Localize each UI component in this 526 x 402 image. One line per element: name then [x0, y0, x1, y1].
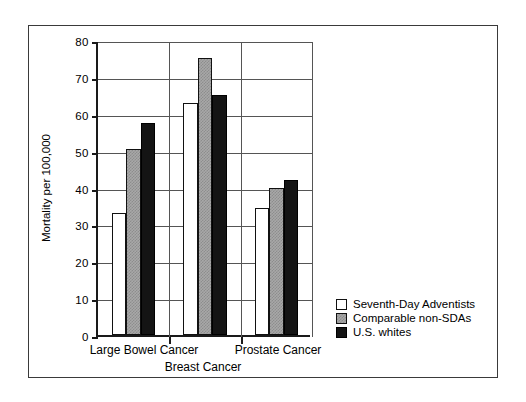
bar-prostate-cancer-comparable-non-sdas [269, 188, 284, 336]
category-label-breast-cancer: Breast Cancer [165, 360, 242, 374]
plot-right-edge [312, 42, 313, 337]
plot-area: 01020304050607080 [96, 42, 310, 337]
y-tick-label-50: 50 [75, 147, 89, 159]
bar-large-bowel-cancer-seventh-day-adventists [112, 213, 127, 335]
y-tick-10 [92, 300, 98, 302]
group-separator-2 [241, 42, 242, 337]
y-tick-label-20: 20 [75, 257, 89, 269]
y-tick-40 [92, 190, 98, 192]
legend-label: Seventh-Day Adventists [353, 298, 475, 310]
y-tick-label-10: 10 [75, 294, 89, 306]
bar-breast-cancer-u-s-whites [212, 95, 227, 335]
y-tick-70 [92, 79, 98, 81]
chart-legend: Seventh-Day Adventists Comparable non-SD… [336, 298, 475, 338]
legend-swatch-gray [336, 313, 347, 324]
y-tick-20 [92, 263, 98, 265]
y-axis-title: Mortality per 100,000 [40, 134, 52, 242]
y-tick-label-80: 80 [75, 36, 89, 48]
y-tick-60 [92, 116, 98, 118]
legend-item-us-whites: U.S. whites [336, 326, 475, 338]
y-tick-label-30: 30 [75, 220, 89, 232]
category-label-large-bowel-cancer: Large Bowel Cancer [90, 343, 199, 357]
y-tick-0 [92, 337, 98, 339]
chart-figure: Mortality per 100,000 01020304050607080 … [0, 0, 526, 402]
y-tick-50 [92, 153, 98, 155]
legend-label: U.S. whites [353, 326, 411, 338]
y-tick-label-0: 0 [82, 331, 89, 343]
group-separator-1 [169, 42, 170, 337]
plot-top-edge [98, 42, 312, 43]
y-tick-label-70: 70 [75, 73, 89, 85]
bar-large-bowel-cancer-comparable-non-sdas [126, 149, 141, 335]
legend-item-seventh-day-adventists: Seventh-Day Adventists [336, 298, 475, 310]
legend-swatch-black [336, 327, 347, 338]
legend-item-comparable-non-sdas: Comparable non-SDAs [336, 312, 475, 324]
bar-prostate-cancer-u-s-whites [284, 180, 299, 335]
category-label-prostate-cancer: Prostate Cancer [235, 343, 322, 357]
bar-breast-cancer-seventh-day-adventists [183, 103, 198, 335]
y-tick-label-40: 40 [75, 184, 89, 196]
bar-prostate-cancer-seventh-day-adventists [255, 208, 270, 335]
legend-swatch-white [336, 299, 347, 310]
bar-breast-cancer-comparable-non-sdas [198, 58, 213, 335]
y-tick-label-60: 60 [75, 110, 89, 122]
bar-large-bowel-cancer-u-s-whites [141, 123, 156, 335]
y-tick-30 [92, 226, 98, 228]
legend-label: Comparable non-SDAs [353, 312, 471, 324]
